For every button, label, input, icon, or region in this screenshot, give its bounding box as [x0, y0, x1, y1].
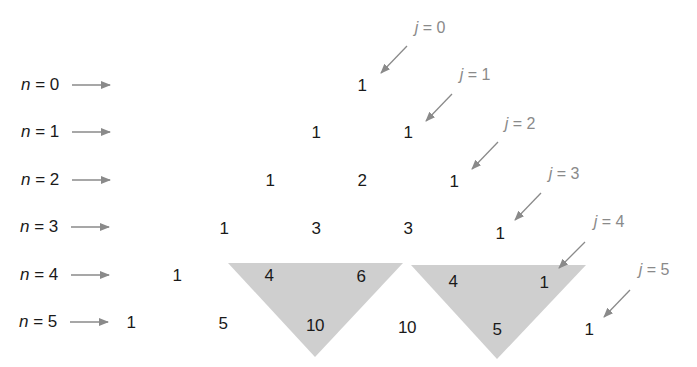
row-label-eq: = [30, 75, 49, 94]
diagonal-label-eq: = [597, 213, 615, 230]
row-label-n4: n = 4 [20, 265, 58, 285]
row-label-n5: n = 5 [19, 312, 57, 332]
cell-n4-j3: 4 [449, 272, 458, 292]
diagonal-label-j5: j = 5 [639, 261, 670, 279]
cell-n3-j0: 1 [220, 219, 229, 239]
diagonal-label-value: 1 [481, 66, 490, 83]
diagonal-label-eq: = [508, 115, 526, 132]
row-label-n0: n = 0 [21, 75, 59, 95]
row-label-value: 2 [50, 170, 59, 189]
cell-n4-j1: 4 [265, 266, 274, 286]
cell-n3-j3: 1 [496, 224, 505, 244]
cell-n4-j0: 1 [173, 266, 182, 286]
cell-n0-j0: 1 [358, 76, 367, 96]
cell-n5-j4: 5 [493, 320, 502, 340]
diagonal-label-value: 4 [615, 213, 624, 230]
diagonal-label-j0: j = 0 [415, 19, 446, 37]
diagonal-label-eq: = [642, 261, 660, 278]
row-arrows [70, 85, 110, 322]
cell-n4-j4: 1 [540, 273, 549, 293]
cell-n2-j0: 1 [266, 171, 275, 191]
cell-n5-j2: 10 [306, 316, 324, 336]
cell-n2-j2: 1 [450, 172, 459, 192]
diagonal-arrow-icon [559, 242, 585, 268]
diagonal-arrow-icon [604, 290, 630, 317]
row-label-value: 3 [49, 217, 58, 236]
row-label-eq: = [29, 217, 48, 236]
row-label-eq: = [29, 265, 48, 284]
cell-n5-j1: 5 [219, 314, 228, 334]
highlight-triangle-2 [411, 265, 586, 359]
cell-n3-j1: 3 [312, 219, 321, 239]
cell-n2-j1: 2 [358, 171, 367, 191]
diagonal-label-value: 0 [436, 19, 445, 36]
cell-n1-j1: 1 [404, 123, 413, 143]
row-label-n1: n = 1 [21, 122, 59, 142]
diagonal-label-j2: j = 2 [505, 115, 536, 133]
row-label-eq: = [30, 122, 49, 141]
diagram-graphics [0, 0, 697, 367]
diagonal-label-eq: = [463, 66, 481, 83]
diagonal-label-value: 2 [526, 115, 535, 132]
row-label-value: 1 [50, 122, 59, 141]
highlight-triangle-1 [228, 263, 403, 357]
cell-n1-j0: 1 [312, 123, 321, 143]
diagonal-label-j1: j = 1 [460, 66, 491, 84]
diagonal-label-eq: = [418, 19, 436, 36]
diagonal-label-value: 5 [660, 261, 669, 278]
diagonal-label-j3: j = 3 [549, 165, 580, 183]
diagonal-arrow-icon [381, 46, 407, 73]
row-label-n3: n = 3 [20, 217, 58, 237]
diagonal-arrow-icon [472, 142, 498, 169]
cell-n5-j0: 1 [127, 313, 136, 333]
row-label-eq: = [30, 170, 49, 189]
cell-n5-j3: 10 [398, 318, 416, 338]
diagonal-label-eq: = [552, 165, 570, 182]
diagonal-arrow-icon [426, 94, 452, 121]
row-label-value: 5 [48, 312, 57, 331]
cell-n4-j2: 6 [357, 267, 366, 287]
row-label-value: 0 [50, 75, 59, 94]
cell-n3-j2: 3 [404, 219, 413, 239]
row-label-n2: n = 2 [21, 170, 59, 190]
row-label-value: 4 [49, 265, 58, 284]
pascal-triangle-diagram: n = 0 n = 1 n = 2 n = 3 n = 4 n = 5 j = … [0, 0, 697, 367]
diagonal-label-j4: j = 4 [594, 213, 625, 231]
row-label-eq: = [28, 312, 47, 331]
cell-n5-j5: 1 [585, 320, 594, 340]
diagonal-arrow-icon [515, 193, 541, 220]
diagonal-label-value: 3 [570, 165, 579, 182]
